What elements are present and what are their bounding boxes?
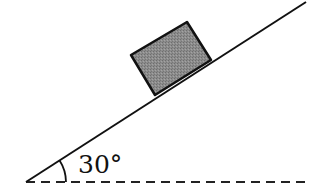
block [131, 22, 211, 95]
angle-label: 30° [78, 150, 122, 180]
angle-arc [60, 160, 66, 182]
incline-line [26, 2, 306, 182]
inclined-plane-diagram [0, 0, 319, 195]
